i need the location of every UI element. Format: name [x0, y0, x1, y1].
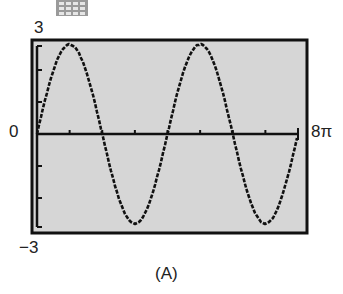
figure-caption: (A) — [155, 265, 178, 282]
y-min-label: −3 — [19, 239, 38, 256]
graph-screen — [0, 0, 343, 294]
screen-frame — [32, 40, 307, 233]
y-max-label: 3 — [34, 19, 43, 36]
x-max-label: 8π — [311, 123, 332, 140]
y-zero-label: 0 — [9, 123, 18, 140]
